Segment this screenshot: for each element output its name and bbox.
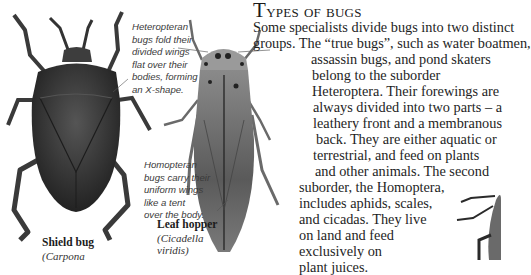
body-line: plant juices. (299, 259, 368, 275)
body-line: leathery front and a membranous (313, 115, 502, 131)
caption-line: divided wings (132, 46, 198, 59)
caption-line: an X-shape. (132, 84, 198, 97)
body-line: terrestrial, and feed on plants (313, 147, 479, 163)
heteropteran-caption: Heteropteran bugs fold their divided win… (132, 21, 198, 97)
caption-line: Homopteran (144, 159, 210, 172)
heading-rest: ypes of bugs (266, 1, 362, 21)
caption-line: Heteropteran (132, 21, 198, 34)
body-line: always divided into two parts – a (313, 99, 502, 115)
body-line: on land and feed (299, 227, 394, 243)
body-line: back. They are either aquatic or (316, 131, 497, 147)
caption-line: like a tent (144, 197, 210, 210)
caption-line: bugs carry their (144, 172, 210, 185)
caption-line: uniform wings (144, 184, 210, 197)
caption-line: bodies, forming (132, 71, 198, 84)
body-line: and other animals. The second (315, 163, 489, 179)
section-heading: Types of bugs (253, 0, 362, 21)
body-line: groups. The “true bugs”, such as water b… (253, 35, 531, 51)
homopteran-caption: Homopteran bugs carry their uniform wing… (144, 159, 210, 222)
body-line: belong to the suborder (312, 67, 440, 83)
leaf-hopper-scientific-2: viridis) (157, 244, 189, 256)
shield-bug-scientific: (Carpona (42, 250, 85, 262)
shield-bug-label: Shield bug (42, 236, 94, 248)
leaf-hopper-scientific-1: (Cicadella (157, 232, 203, 244)
body-line: exclusively on (299, 243, 382, 259)
partial-bug-image (451, 180, 501, 260)
leaf-hopper-label: Leaf hopper (157, 218, 217, 230)
body-line: includes aphids, scales, (299, 195, 432, 211)
caption-line: flat over their (132, 59, 198, 72)
body-line: Heteroptera. Their forewings are (312, 83, 499, 99)
body-line: suborder, the Homoptera, (299, 179, 445, 195)
body-line: Some specialists divide bugs into two di… (253, 19, 514, 35)
caption-line: bugs fold their (132, 34, 198, 47)
body-line: assassin bugs, and pond skaters (311, 51, 491, 67)
body-line: and cicadas. They live (299, 211, 427, 227)
